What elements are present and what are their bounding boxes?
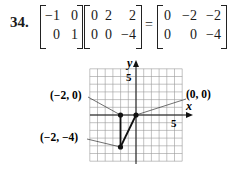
y-axis-label: y: [125, 56, 133, 70]
x-tick-label: 5: [171, 117, 177, 129]
x-axis-label: x: [185, 99, 192, 113]
point-label: (−2, −4): [40, 131, 78, 144]
point-marker: [133, 112, 138, 117]
y-axis-arrow-icon: [133, 60, 139, 67]
y-tick-label: 5: [126, 71, 132, 83]
point-label: (0, 0): [186, 88, 211, 101]
point-label: (−2, 0): [50, 89, 82, 102]
point-marker: [118, 144, 123, 149]
coordinate-graph: x y 5 5 (−2, 0) (0, 0) (−2, −4): [0, 0, 242, 172]
point-marker: [118, 112, 123, 117]
